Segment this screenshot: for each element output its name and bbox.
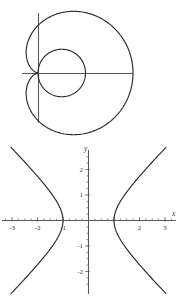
axis-tick-label: 2 [138, 224, 142, 232]
axis-tick-label: 3 [163, 224, 167, 232]
hyperbola-plot-svg: -3-2-123-2-112 x y [0, 144, 185, 299]
x-axis-label: x [171, 209, 176, 218]
axis-tick-label: -2 [77, 268, 83, 276]
axis-tick-label: -1 [60, 224, 66, 232]
axis-tick-label: -3 [9, 224, 15, 232]
axis-tick-label: -2 [35, 224, 41, 232]
hyperbola-figure: -3-2-123-2-112 x y [0, 144, 185, 299]
axis-tick-label: 1 [80, 191, 84, 199]
polar-cardioid-figure [0, 0, 185, 150]
axis-tick-label: 2 [80, 166, 84, 174]
axis-tick-label: -1 [77, 242, 83, 250]
y-axis-label: y [83, 144, 88, 153]
polar-plot-svg [0, 0, 185, 150]
